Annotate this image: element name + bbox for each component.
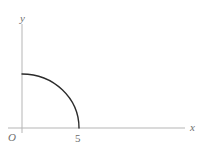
x-tick-label-5: 5 xyxy=(75,133,81,144)
quarter-ellipse-curve xyxy=(22,74,79,128)
y-axis-label: y xyxy=(20,13,25,24)
x-axis-label: x xyxy=(190,122,195,133)
figure-canvas: y x O 5 xyxy=(0,0,216,155)
coordinate-plot xyxy=(0,0,216,155)
origin-label: O xyxy=(8,132,16,143)
